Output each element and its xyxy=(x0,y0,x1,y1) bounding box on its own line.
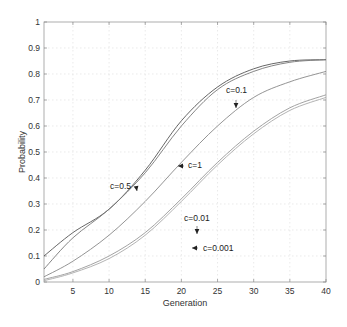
x-tick-label: 25 xyxy=(213,286,223,296)
annotation-label: c=0.001 xyxy=(203,243,234,253)
arrowhead-icon xyxy=(178,164,183,169)
x-tick-label: 15 xyxy=(140,286,150,296)
x-tick-label: 5 xyxy=(71,286,76,296)
y-tick-label: 0.1 xyxy=(28,251,40,261)
y-tick-label: 0 xyxy=(35,277,40,287)
arrowhead-icon xyxy=(192,246,197,251)
y-tick-label: 0.6 xyxy=(28,121,40,131)
y-tick-label: 0.7 xyxy=(28,95,40,105)
curve-c-0-001 xyxy=(44,97,326,280)
probability-chart: 510152025303540 00.10.20.30.40.50.60.70.… xyxy=(0,0,347,327)
annotation-label: c=0.5 xyxy=(110,181,131,191)
curve-c-1 xyxy=(44,60,326,269)
x-tick-label: 40 xyxy=(321,286,331,296)
curve-c-0-1 xyxy=(44,71,326,276)
y-tick-label: 0.5 xyxy=(28,147,40,157)
grid-lines xyxy=(44,22,326,282)
x-tick-label: 30 xyxy=(249,286,259,296)
arrowhead-icon xyxy=(195,229,200,234)
y-tick-label: 0.3 xyxy=(28,199,40,209)
y-tick-label: 0.8 xyxy=(28,69,40,79)
annotation-label: c=0.01 xyxy=(184,213,210,223)
annotation-label: c=0.1 xyxy=(226,85,247,95)
arrowhead-icon xyxy=(234,103,239,108)
y-tick-labels: 00.10.20.30.40.50.60.70.80.91 xyxy=(28,17,40,287)
y-tick-label: 0.2 xyxy=(28,225,40,235)
arrowhead-icon xyxy=(134,186,139,191)
y-tick-label: 1 xyxy=(35,17,40,27)
x-axis-label: Generation xyxy=(163,298,208,308)
x-tick-label: 10 xyxy=(104,286,114,296)
y-tick-label: 0.9 xyxy=(28,43,40,53)
annotation-label: c=1 xyxy=(188,160,202,170)
x-tick-label: 35 xyxy=(285,286,295,296)
curve-annotations: c=0.5c=1c=0.1c=0.01c=0.001 xyxy=(110,85,247,253)
y-axis-label: Probability xyxy=(17,130,27,173)
y-tick-label: 0.4 xyxy=(28,173,40,183)
x-tick-label: 20 xyxy=(177,286,187,296)
x-tick-labels: 510152025303540 xyxy=(71,286,331,296)
series-curves xyxy=(44,60,326,281)
